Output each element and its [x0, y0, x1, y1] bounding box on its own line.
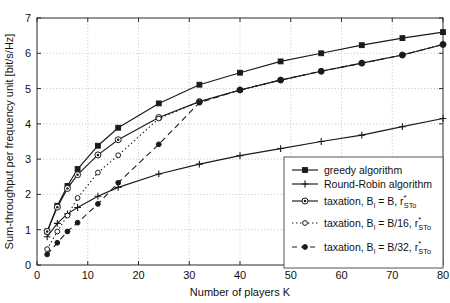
- data-point-marker: [359, 43, 364, 48]
- data-point-marker: [75, 196, 80, 201]
- y-tick-label: 3: [25, 153, 31, 165]
- x-tick-label: 20: [132, 269, 144, 281]
- y-tick-label: 0: [25, 259, 31, 271]
- data-point-marker: [302, 198, 308, 204]
- data-point-marker: [303, 168, 308, 173]
- chart-figure: 0102030405060708001234567Number of playe…: [0, 0, 450, 303]
- y-tick-label: 5: [25, 83, 31, 95]
- x-tick-label: 0: [34, 269, 40, 281]
- x-axis-title: Number of players K: [190, 286, 291, 298]
- data-point-marker: [400, 36, 405, 41]
- data-point-marker: [54, 204, 60, 210]
- x-tick-label: 50: [285, 269, 297, 281]
- y-tick-label: 2: [25, 188, 31, 200]
- data-point-marker: [278, 78, 283, 83]
- data-point-marker: [155, 171, 162, 178]
- data-point-marker: [44, 228, 50, 234]
- data-point-marker: [55, 229, 60, 234]
- y-tick-label: 4: [25, 118, 31, 130]
- data-point-marker: [238, 88, 243, 93]
- data-point-marker: [75, 167, 80, 172]
- data-point-marker: [277, 145, 284, 152]
- x-tick-label: 10: [82, 269, 94, 281]
- data-point-marker: [303, 221, 308, 226]
- data-point-marker: [197, 100, 202, 105]
- data-point-marker: [156, 116, 161, 121]
- data-point-marker: [75, 172, 81, 178]
- chart-canvas: 0102030405060708001234567Number of playe…: [0, 0, 450, 303]
- data-point-marker: [45, 247, 50, 252]
- data-point-marker: [318, 138, 325, 145]
- data-point-marker: [400, 53, 405, 58]
- data-point-marker: [303, 245, 308, 250]
- data-point-marker: [156, 142, 161, 147]
- x-tick-label: 30: [183, 269, 195, 281]
- data-point-marker: [74, 204, 81, 211]
- x-tick-label: 60: [335, 269, 347, 281]
- data-point-marker: [95, 193, 102, 200]
- data-point-marker: [196, 161, 203, 168]
- data-point-marker: [116, 180, 121, 185]
- data-point-marker: [358, 132, 365, 139]
- x-tick-label: 80: [437, 269, 449, 281]
- data-point-marker: [441, 42, 446, 47]
- data-point-marker: [278, 59, 283, 64]
- data-point-marker: [319, 51, 324, 56]
- data-point-marker: [65, 213, 70, 218]
- data-point-marker: [197, 82, 202, 87]
- data-point-marker: [115, 137, 121, 143]
- data-point-marker: [65, 229, 70, 234]
- y-axis-title: Sum-throughput per frequency unit [bit/s…: [3, 34, 15, 250]
- legend-label: Round-Robin algorithm: [324, 178, 432, 190]
- data-point-marker: [441, 30, 446, 35]
- data-point-marker: [116, 125, 121, 130]
- data-point-marker: [399, 123, 406, 130]
- data-point-marker: [156, 101, 161, 106]
- y-tick-label: 6: [25, 47, 31, 59]
- data-point-marker: [359, 61, 364, 66]
- data-point-marker: [440, 115, 447, 122]
- data-point-marker: [45, 252, 50, 257]
- legend-label: greedy algorithm: [324, 164, 402, 176]
- data-point-marker: [96, 170, 101, 175]
- data-point-marker: [238, 70, 243, 75]
- x-tick-label: 70: [386, 269, 398, 281]
- data-point-marker: [64, 185, 70, 191]
- data-point-marker: [55, 240, 60, 245]
- x-tick-label: 40: [234, 269, 246, 281]
- y-tick-label: 7: [25, 12, 31, 24]
- data-point-marker: [75, 220, 80, 225]
- data-point-marker: [95, 152, 101, 158]
- legend: greedy algorithmRound-Robin algorithmtax…: [284, 157, 443, 268]
- data-point-marker: [237, 152, 244, 159]
- data-point-marker: [319, 69, 324, 74]
- y-tick-label: 1: [25, 224, 31, 236]
- data-point-marker: [96, 202, 101, 207]
- data-point-marker: [116, 153, 121, 158]
- data-point-marker: [96, 143, 101, 148]
